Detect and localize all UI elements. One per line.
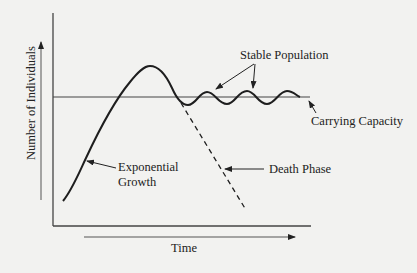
carrying-capacity-arrow bbox=[309, 101, 316, 113]
exponential-growth-label-line2: Growth bbox=[118, 175, 157, 189]
carrying-capacity-label: Carrying Capacity bbox=[311, 114, 404, 128]
exponential-growth-arrow bbox=[87, 161, 116, 168]
stable-population-arrow-2 bbox=[253, 64, 255, 88]
population-curve bbox=[63, 66, 300, 201]
death-phase-label: Death Phase bbox=[269, 162, 332, 176]
exponential-growth-label-line1: Exponential bbox=[118, 160, 179, 174]
stable-population-label: Stable Population bbox=[240, 48, 329, 62]
population-growth-diagram: Stable Population Carrying Capacity Expo… bbox=[0, 0, 417, 273]
stable-population-arrow-1 bbox=[216, 64, 254, 89]
y-axis-label: Number of Individuals bbox=[24, 46, 38, 160]
x-axis-label: Time bbox=[171, 241, 197, 255]
death-phase-line bbox=[181, 103, 246, 210]
